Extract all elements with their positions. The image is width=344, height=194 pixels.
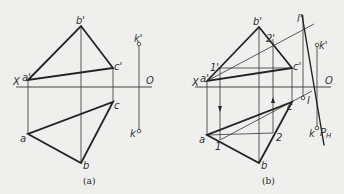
label-a: a	[20, 133, 26, 144]
auxiliary-line-top	[220, 91, 312, 140]
point-k	[137, 129, 141, 133]
label-l-prime: l'	[297, 13, 303, 24]
label-b: b	[83, 160, 89, 171]
label-c-prime-b: c'	[293, 61, 301, 72]
label-b-prime: b'	[76, 15, 85, 26]
label-a-b: a	[199, 134, 205, 145]
label-c-prime: c'	[114, 61, 122, 72]
label-2: 2	[276, 132, 282, 143]
label-a-prime-b: a'	[200, 73, 209, 84]
figure-a: X O a' b' c' a b c k' k (a)	[12, 15, 154, 186]
label-c: c	[114, 100, 120, 111]
caption-a: (a)	[83, 176, 95, 186]
triangle-top-view	[28, 102, 113, 163]
arrow-down-icon	[218, 106, 222, 112]
label-a-prime: a'	[22, 72, 31, 83]
point-l	[301, 96, 305, 100]
label-o: O	[146, 75, 154, 86]
label-l: l	[307, 95, 310, 106]
horizontal-line-top	[207, 133, 273, 135]
label-2-prime: 2'	[266, 33, 275, 44]
label-b-b: b	[261, 160, 267, 171]
label-1: 1	[215, 141, 221, 152]
label-k: k	[130, 128, 137, 139]
label-x-b: X	[191, 77, 200, 88]
label-k-b: k	[309, 128, 316, 139]
label-c-b: c	[287, 101, 293, 112]
point-k-b	[315, 126, 319, 130]
triangle-front-view	[28, 26, 113, 80]
figure-b: X O a' b' c' 1' 2' a b c 1 2 l' l k' k P…	[191, 13, 333, 186]
label-k-prime: k'	[134, 33, 143, 44]
projection-diagram: X O a' b' c' a b c k' k (a)	[0, 0, 344, 194]
caption-b: (b)	[262, 176, 275, 186]
label-ph: PH	[320, 127, 332, 140]
label-k-prime-b: k'	[319, 40, 328, 51]
label-1-prime: 1'	[210, 62, 219, 73]
arrow-up-icon	[271, 97, 275, 103]
label-h-subscript: H	[326, 132, 332, 140]
label-o-b: O	[325, 75, 333, 86]
plane-trace-ph	[302, 15, 324, 145]
label-b-prime-b: b'	[253, 16, 262, 27]
label-x: X	[12, 76, 21, 87]
